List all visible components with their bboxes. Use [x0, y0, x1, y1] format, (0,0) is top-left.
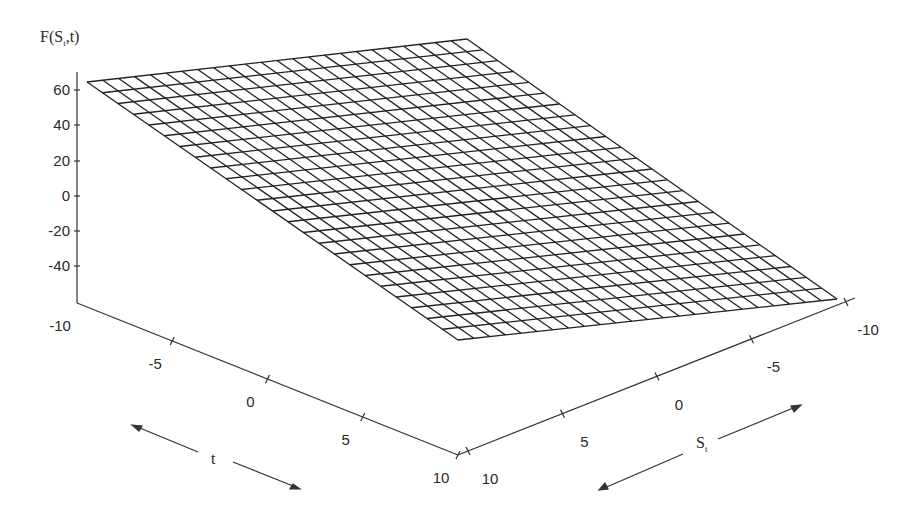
s-tick-label: -10: [857, 321, 879, 338]
z-tick-label: 60: [53, 81, 70, 98]
s-tick-label: -5: [767, 358, 780, 375]
t-direction-arrows: [132, 425, 300, 489]
t-tick-label: 0: [246, 393, 254, 410]
t-axis-label: t: [211, 450, 216, 467]
surface-plot: 6040200-20-40 -10-50510 1050-5-10 F(St,t…: [0, 0, 899, 518]
surface-mesh: [87, 39, 837, 340]
s-axis-label: St: [696, 434, 708, 454]
t-axis-ticks: -10-50510: [49, 317, 460, 486]
s-tick-label: 5: [580, 433, 588, 450]
z-tick-label: -40: [48, 257, 70, 274]
z-tick-label: 0: [62, 187, 70, 204]
t-tick-label: 5: [342, 431, 350, 448]
z-axis-ticks: 6040200-20-40: [48, 81, 80, 274]
z-tick-label: 40: [53, 116, 70, 133]
z-axis-label: F(St,t): [40, 28, 79, 48]
t-tick-label: 10: [433, 469, 450, 486]
s-tick-label: 10: [482, 470, 499, 487]
s-tick-label: 0: [675, 396, 683, 413]
z-tick-label: 20: [53, 152, 70, 169]
t-tick-label: -10: [49, 317, 71, 334]
z-tick-label: -20: [48, 222, 70, 239]
t-tick-label: -5: [149, 355, 162, 372]
